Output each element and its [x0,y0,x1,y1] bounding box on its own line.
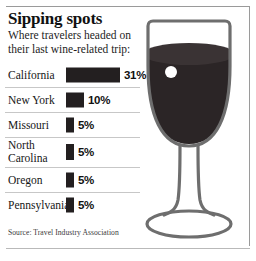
chart-row: Missouri5% [0,112,146,137]
frame-top-rule [6,6,250,7]
chart-row: Oregon5% [0,167,146,192]
page-title: Sipping spots [8,10,102,28]
chart-row: NorthCarolina5% [0,137,146,167]
page-subtitle: Where travelers headed on their last win… [8,29,148,56]
row-value-label: 5% [78,199,94,211]
row-bar-group: 10% [66,92,110,107]
sipping-spots-infographic: Sipping spots Where travelers headed on … [0,0,256,261]
row-label: Pennsylvania [8,198,66,211]
frame-right-rule [249,6,250,246]
row-bar-group: 5% [66,144,94,160]
wine-highlight-dot [165,66,177,78]
row-label: New York [8,93,66,106]
row-bar [66,92,84,107]
row-divider [5,112,140,113]
row-label-line-2: Carolina [8,152,48,164]
row-bar [66,67,120,82]
chart-row: Pennsylvania5% [0,192,146,217]
row-value-label: 5% [78,146,94,158]
chart-row: California31% [0,62,146,87]
bar-chart-rows: California31%New York10%Missouri5%NorthC… [0,62,146,217]
row-bar [66,117,74,132]
subtitle-line-2: their last wine-related trip: [8,43,130,55]
row-value-label: 5% [78,174,94,186]
row-label-line-1: North [8,139,35,151]
row-bar-group: 5% [66,172,94,187]
row-bar-group: 5% [66,197,94,212]
wine-glass-icon [130,10,248,250]
row-bar [66,197,74,212]
row-bar [66,144,74,160]
row-label: Oregon [8,173,66,186]
chart-row: New York10% [0,87,146,112]
row-divider [5,192,140,193]
row-label: NorthCarolina [8,139,66,165]
row-divider [5,137,140,138]
row-value-label: 5% [78,119,94,131]
subtitle-line-1: Where travelers headed on [8,29,131,41]
source-note: Source: Travel Industry Association [8,228,119,237]
row-divider [5,87,140,88]
row-label: California [8,68,66,81]
row-value-label: 10% [88,94,110,106]
row-bar-group: 5% [66,117,94,132]
row-label: Missouri [8,118,66,131]
row-divider [5,167,140,168]
row-bar [66,172,74,187]
